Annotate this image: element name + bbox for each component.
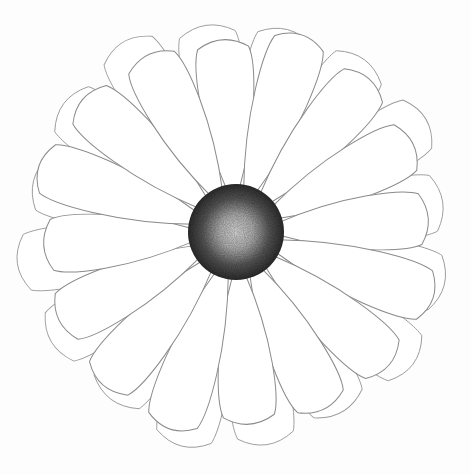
flower-svg [0, 0, 471, 475]
flower-center [188, 184, 284, 280]
flower-drawing [0, 0, 471, 475]
